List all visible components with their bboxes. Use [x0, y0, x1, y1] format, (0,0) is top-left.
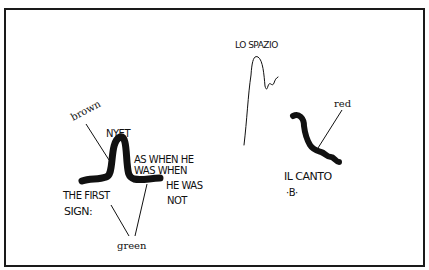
lo-spazio-label: LO SPAZIO: [235, 40, 278, 50]
green-pointer-line-left: [111, 205, 129, 236]
side-text-line-1: AS WHEN HE: [134, 154, 194, 165]
side-text-line-4: NOT: [167, 195, 188, 206]
label-green: green: [117, 240, 147, 251]
label-brown: brown: [69, 98, 103, 123]
label-red: red: [334, 98, 352, 109]
il-canto-line-1: IL CANTO: [284, 170, 333, 183]
side-text-line-2: WAS WHEN: [134, 165, 187, 176]
il-canto-line-2: ·B·: [286, 187, 298, 198]
side-text-line-3: HE WAS: [166, 180, 203, 191]
diagram-canvas: NYET AS WHEN HE WAS WHEN HE WAS NOT THE …: [0, 0, 429, 270]
green-pointer-line-right: [135, 184, 147, 236]
peak-label-nyet: NYET: [106, 128, 131, 139]
red-curve-stroke: [293, 115, 339, 162]
caption-first-sign-line-2: SIGN:: [64, 205, 92, 218]
red-pointer-line: [318, 110, 342, 148]
lo-spazio-stroke: [244, 57, 278, 145]
caption-first-sign-line-1: THE FIRST: [62, 190, 111, 201]
